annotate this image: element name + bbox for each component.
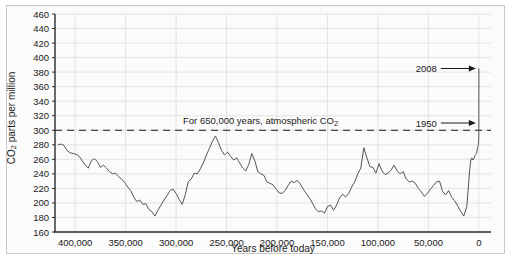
svg-text:440: 440 xyxy=(33,23,49,34)
svg-text:280: 280 xyxy=(33,139,49,150)
svg-text:240: 240 xyxy=(33,168,49,179)
svg-text:300,000: 300,000 xyxy=(159,237,193,248)
svg-text:380: 380 xyxy=(33,67,49,78)
svg-text:200: 200 xyxy=(33,197,49,208)
svg-text:420: 420 xyxy=(33,38,49,49)
reference-line-label: For 650,000 years, atmospheric CO2 xyxy=(183,115,338,128)
y-tick-labels: 1601802002202402602803003203403603804004… xyxy=(33,9,55,238)
chart-figure: CO2 parts per million Years before today… xyxy=(0,0,512,260)
svg-text:400: 400 xyxy=(33,52,49,63)
svg-text:200,000: 200,000 xyxy=(260,237,294,248)
svg-text:400,000: 400,000 xyxy=(58,237,92,248)
svg-text:300: 300 xyxy=(33,125,49,136)
svg-text:2008: 2008 xyxy=(416,63,437,74)
svg-text:360: 360 xyxy=(33,81,49,92)
svg-text:320: 320 xyxy=(33,110,49,121)
svg-text:460: 460 xyxy=(33,9,49,20)
svg-text:180: 180 xyxy=(33,212,49,223)
svg-text:100,000: 100,000 xyxy=(361,237,395,248)
svg-text:250,000: 250,000 xyxy=(209,237,243,248)
svg-text:150,000: 150,000 xyxy=(310,237,344,248)
svg-text:1950: 1950 xyxy=(416,118,437,129)
svg-text:220: 220 xyxy=(33,183,49,194)
chart-plot: 1601802002202402602803003203403603804004… xyxy=(0,0,512,260)
svg-text:0: 0 xyxy=(476,237,481,248)
co2-data-line xyxy=(58,69,479,217)
svg-text:340: 340 xyxy=(33,96,49,107)
svg-text:160: 160 xyxy=(33,227,49,238)
x-tick-labels: 400,000350,000300,000250,000200,000150,0… xyxy=(58,237,482,248)
svg-text:50,000: 50,000 xyxy=(414,237,443,248)
annotation-group: 20081950 xyxy=(416,63,476,129)
svg-text:260: 260 xyxy=(33,154,49,165)
svg-text:350,000: 350,000 xyxy=(108,237,142,248)
